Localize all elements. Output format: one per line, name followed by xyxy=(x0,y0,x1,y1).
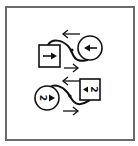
arrow-right-icon xyxy=(63,107,78,115)
arrow-left-icon xyxy=(63,77,80,85)
arrow-left-icon xyxy=(63,30,80,38)
numeral-2-rotated: 2 xyxy=(38,95,48,101)
pair-top xyxy=(39,30,102,72)
circle-connector-1 xyxy=(78,36,102,60)
pair-bottom: 2 2 xyxy=(35,77,100,115)
arrow-right-icon xyxy=(64,64,78,72)
numeral-2-rotated: 2 xyxy=(89,86,99,92)
connection-diagram: 2 2 xyxy=(0,0,138,146)
circle-connector-2: 2 xyxy=(35,86,59,110)
square-connector-1 xyxy=(39,45,60,67)
square-connector-2: 2 xyxy=(80,79,100,100)
